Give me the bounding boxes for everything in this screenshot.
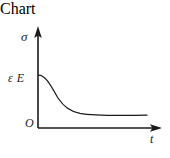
decay-curve (39, 75, 148, 116)
x-axis-label: t (150, 133, 153, 145)
y-axis-tick-label-initial-value: ε E (8, 72, 25, 84)
stress-relaxation-figure: σ t O ε E (0, 18, 170, 158)
y-axis-label: σ (21, 30, 27, 43)
origin-label: O (25, 117, 34, 129)
